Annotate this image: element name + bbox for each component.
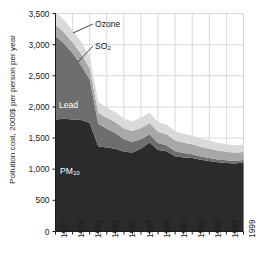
chart-figure: Pollution cost, 2000$ per person per yea… [0,0,256,269]
x-axis-tick-labels: 1977197919811983198519871989199119931995… [0,0,256,269]
x-tick-label: 1985 [127,219,137,238]
x-tick-label: 1993 [196,219,206,238]
x-tick-label: 1995 [213,219,223,238]
series-label-pm10: PM10 [60,166,80,176]
x-tick-label: 1983 [110,219,120,238]
x-tick-label: 1977 [59,219,69,238]
x-tick-label: 1991 [179,219,189,238]
series-label-lead: Lead [59,100,78,110]
series-label-so2: SO2 [95,41,111,51]
x-tick-label: 1999 [247,219,256,238]
x-tick-label: 1989 [162,219,172,238]
x-tick-label: 1981 [93,219,103,238]
x-tick-label: 1987 [145,219,155,238]
x-tick-label: 1979 [76,219,86,238]
series-label-ozone: Ozone [95,19,120,29]
x-tick-label: 1997 [230,219,240,238]
